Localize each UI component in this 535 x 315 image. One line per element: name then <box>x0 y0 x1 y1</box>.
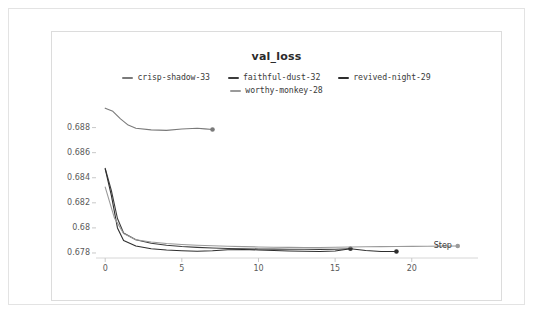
outer-card: val_loss crisp-shadow-33 faithful-dust-3… <box>8 8 525 305</box>
legend-item-revived-night-29[interactable]: revived-night-29 <box>338 71 430 84</box>
chart-panel: val_loss crisp-shadow-33 faithful-dust-3… <box>51 31 502 301</box>
legend-row-1: crisp-shadow-33 faithful-dust-32 revived… <box>52 71 501 84</box>
legend-label: faithful-dust-32 <box>243 71 320 84</box>
legend-label: worthy-monkey-28 <box>245 84 322 97</box>
chart-screenshot: val_loss crisp-shadow-33 faithful-dust-3… <box>0 0 535 315</box>
legend-item-crisp-shadow-33[interactable]: crisp-shadow-33 <box>122 71 209 84</box>
legend-row-2: worthy-monkey-28 <box>52 84 501 97</box>
legend-swatch-icon <box>338 77 349 79</box>
legend-swatch-icon <box>228 77 239 79</box>
legend-label: revived-night-29 <box>353 71 430 84</box>
chart-title: val_loss <box>52 50 501 63</box>
legend-item-worthy-monkey-28[interactable]: worthy-monkey-28 <box>230 84 322 97</box>
legend-label: crisp-shadow-33 <box>137 71 209 84</box>
legend-swatch-icon <box>122 77 133 79</box>
chart-legend: crisp-shadow-33 faithful-dust-32 revived… <box>52 71 501 97</box>
legend-swatch-icon <box>230 90 241 92</box>
legend-item-faithful-dust-32[interactable]: faithful-dust-32 <box>228 71 320 84</box>
